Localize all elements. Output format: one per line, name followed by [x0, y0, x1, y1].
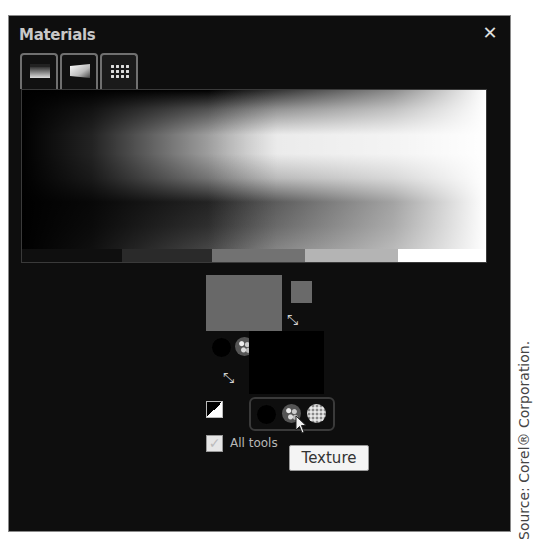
- swatch[interactable]: [305, 249, 398, 262]
- reset-colors-icon[interactable]: [206, 401, 223, 418]
- background-fill-swatch[interactable]: [249, 331, 324, 394]
- frame-tab-icon: [30, 64, 50, 78]
- tab-rainbow[interactable]: [60, 53, 98, 89]
- swatch[interactable]: [398, 249, 486, 262]
- rainbow-tab-icon: [70, 64, 90, 78]
- materials-panel: Materials ✕ ⤡ ⤡ ✓ All tools: [8, 15, 511, 532]
- tab-frame[interactable]: [20, 53, 58, 89]
- color-spectrum[interactable]: [22, 90, 486, 250]
- all-tools-label: All tools: [230, 436, 278, 450]
- swatches-tab-icon: [110, 64, 130, 78]
- foreground-stroke-swatch[interactable]: [206, 275, 282, 331]
- tab-swatches[interactable]: [100, 53, 138, 89]
- close-icon[interactable]: ✕: [481, 24, 499, 42]
- swatch[interactable]: [212, 249, 305, 262]
- foreground-color-mini-swatch[interactable]: [291, 281, 312, 303]
- color-style-icon[interactable]: [211, 337, 232, 358]
- swatch[interactable]: [122, 249, 212, 262]
- texture-tooltip: Texture: [289, 445, 369, 471]
- swap-colors-icon[interactable]: ⤡: [287, 313, 298, 327]
- panel-title: Materials: [19, 26, 95, 44]
- swap-materials-icon[interactable]: ⤡: [223, 371, 234, 385]
- all-tools-checkbox[interactable]: ✓: [206, 435, 223, 452]
- tab-bar: [20, 53, 138, 90]
- mouse-pointer-icon: [295, 415, 309, 435]
- swatch[interactable]: [22, 249, 122, 262]
- source-caption: Source: Corel® Corporation.: [516, 341, 532, 540]
- color-style-icon[interactable]: [256, 404, 277, 425]
- color-picker[interactable]: [21, 89, 487, 263]
- recent-swatch-strip: [22, 249, 486, 262]
- pattern-style-icon[interactable]: [307, 404, 326, 423]
